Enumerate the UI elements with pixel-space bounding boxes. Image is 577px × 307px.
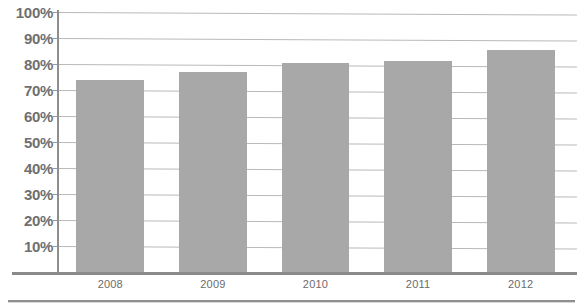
plot-area: 100%90%80%70%60%50%40%30%20%10% 20082009… [0, 0, 577, 307]
x-axis-tick-label-2012: 2012 [508, 278, 533, 290]
bottom-divider-rule [8, 300, 575, 303]
x-axis-tick-label-2008: 2008 [98, 278, 123, 290]
x-axis-tick-label-2009: 2009 [200, 278, 225, 290]
bar-2012 [487, 50, 555, 272]
bar-2010 [282, 63, 350, 272]
x-axis-tick-label-2011: 2011 [406, 278, 430, 290]
x-axis-tick-label-2010: 2010 [303, 278, 328, 290]
bar-2011 [384, 61, 452, 272]
bars-group [0, 0, 577, 307]
x-axis-labels-group: 20082009201020112012 [0, 278, 577, 298]
bar-chart-figure: 100%90%80%70%60%50%40%30%20%10% 20082009… [0, 0, 577, 307]
bar-2008 [76, 80, 144, 272]
bar-2009 [179, 72, 247, 272]
